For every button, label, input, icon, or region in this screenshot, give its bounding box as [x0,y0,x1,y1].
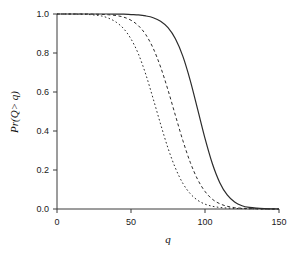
y-tick-label: 0.8 [36,48,49,58]
chart-figure: 050100150 0.00.20.40.60.81.0 q Pr(Q> q) [0,0,302,255]
y-axis-title: Pr(Q> q) [8,91,21,134]
x-tick-label: 0 [54,217,59,227]
y-tick-label: 1.0 [36,9,49,19]
y-tick-label: 0.4 [36,126,49,136]
x-tick-label: 150 [271,217,286,227]
y-tick-label: 0.2 [36,165,49,175]
y-tick-label: 0.0 [36,204,49,214]
x-tick-label: 100 [197,217,212,227]
survival-curve-chart: 050100150 0.00.20.40.60.81.0 q Pr(Q> q) [0,0,302,255]
x-tick-label: 50 [126,217,136,227]
x-axis-title: q [165,233,171,245]
y-tick-label: 0.6 [36,87,49,97]
